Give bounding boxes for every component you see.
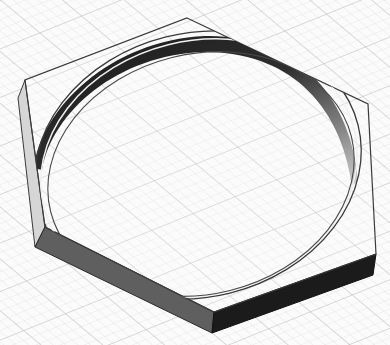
3d-model-render <box>0 0 390 345</box>
cad-viewport[interactable] <box>0 0 390 345</box>
